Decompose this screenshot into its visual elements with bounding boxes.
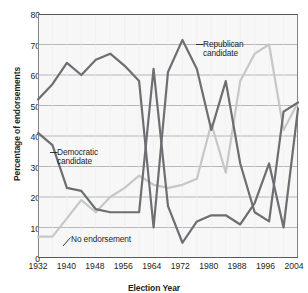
y-tick-10: 10 [14, 225, 40, 234]
y-tick-70: 70 [14, 42, 40, 51]
y-tick-80: 80 [14, 11, 40, 20]
republican-candidate-label: Republican candidate [203, 40, 244, 59]
democratic-candidate-label: Democratic candidate [57, 148, 98, 167]
y-axis-title: Percentage of endorsements [12, 44, 22, 204]
y-tick-50: 50 [14, 103, 40, 112]
y-tick-40: 40 [14, 133, 40, 142]
y-tick-30: 30 [14, 164, 40, 173]
y-tick-60: 60 [14, 72, 40, 81]
plot-area [38, 14, 298, 258]
no-endorsement-label: No endorsement [71, 235, 131, 244]
y-tick-20: 20 [14, 194, 40, 203]
x-axis-title: Election Year [0, 283, 308, 293]
x-tick-2004: 2004 [277, 262, 308, 271]
endorsements-line-chart: Percentage of endorsements 80 70 60 50 4… [0, 0, 308, 293]
